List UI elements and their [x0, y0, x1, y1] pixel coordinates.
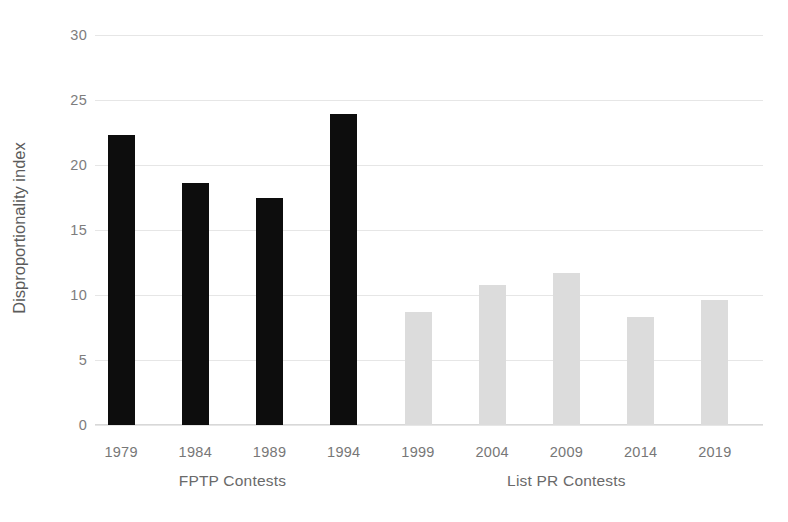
gridline	[95, 425, 763, 426]
bar-1979[interactable]	[108, 135, 135, 425]
x-axis-tick-label-2009: 2009	[550, 444, 583, 460]
x-axis-labels: 197919841989199419992004200920142019	[95, 444, 763, 468]
plot-area	[95, 35, 763, 425]
y-axis-tick-label: 0	[41, 417, 87, 433]
y-axis-tick-label: 20	[41, 157, 87, 173]
group-label-fptp: FPTP Contests	[179, 472, 286, 490]
x-axis-tick-label-2014: 2014	[624, 444, 657, 460]
x-axis-tick-label-1979: 1979	[104, 444, 137, 460]
x-axis-tick-label-1989: 1989	[253, 444, 286, 460]
gridline	[95, 35, 763, 36]
x-axis-tick-label-1994: 1994	[327, 444, 360, 460]
x-axis-tick-label-1999: 1999	[401, 444, 434, 460]
y-axis-ticks: 051015202530	[35, 35, 87, 425]
bar-1999[interactable]	[405, 312, 432, 425]
gridline	[95, 165, 763, 166]
bar-1984[interactable]	[182, 183, 209, 425]
bar-chart: Disproportionality index 051015202530 19…	[0, 0, 788, 522]
y-axis-tick-label: 30	[41, 27, 87, 43]
bar-2004[interactable]	[479, 285, 506, 425]
x-axis-tick-label-2019: 2019	[698, 444, 731, 460]
y-axis-title: Disproportionality index	[2, 18, 36, 438]
bar-1994[interactable]	[330, 114, 357, 425]
gridline	[95, 100, 763, 101]
y-axis-tick-label: 25	[41, 92, 87, 108]
x-axis-tick-label-1984: 1984	[179, 444, 212, 460]
y-axis-tick-label: 5	[41, 352, 87, 368]
bar-2019[interactable]	[701, 300, 728, 425]
bar-2009[interactable]	[553, 273, 580, 425]
bar-1989[interactable]	[256, 198, 283, 426]
x-axis-tick-label-2004: 2004	[475, 444, 508, 460]
y-axis-title-label: Disproportionality index	[10, 142, 29, 314]
y-axis-tick-label: 15	[41, 222, 87, 238]
group-label-list-pr: List PR Contests	[507, 472, 626, 490]
y-axis-tick-label: 10	[41, 287, 87, 303]
bar-2014[interactable]	[627, 317, 654, 425]
x-axis-group-labels: FPTP ContestsList PR Contests	[95, 472, 763, 498]
